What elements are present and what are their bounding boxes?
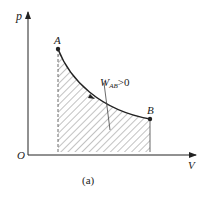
point-b-label: B xyxy=(147,104,154,116)
origin-label: O xyxy=(17,149,25,161)
pv-diagram: p O V A B WAB>0 (a) xyxy=(0,0,211,200)
point-a-label: A xyxy=(53,34,61,46)
point-a xyxy=(56,47,60,51)
work-area xyxy=(58,49,150,152)
figure-caption: (a) xyxy=(82,174,95,187)
p-axis-label: p xyxy=(15,9,22,23)
point-b xyxy=(148,117,152,121)
work-annotation: WAB>0 xyxy=(100,76,130,90)
v-axis-label: V xyxy=(188,159,196,171)
